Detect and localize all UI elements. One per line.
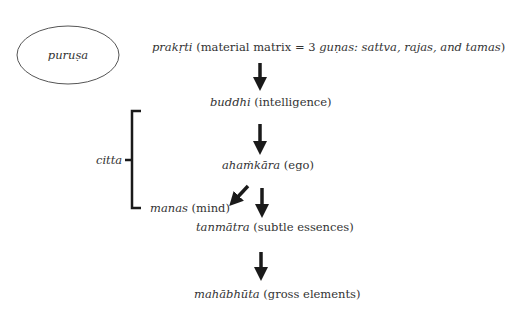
bracket-icon: [125, 111, 141, 208]
prakrti-gloss-close: ): [501, 40, 505, 54]
arrow-ahamkara-manas: [234, 186, 248, 201]
